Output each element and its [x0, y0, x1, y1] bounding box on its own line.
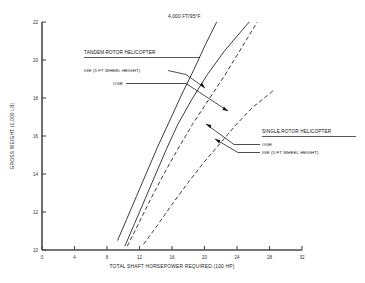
- y-tick-label: 18: [33, 96, 39, 101]
- y-tick-label: 20: [33, 58, 39, 63]
- x-axis: 048121620242832: [41, 246, 305, 260]
- x-tick-label: 24: [234, 255, 240, 260]
- single-oge-label: OGE: [262, 142, 272, 147]
- curve-series-3: [144, 90, 274, 244]
- tandem-oge-arrow: [223, 107, 228, 111]
- x-tick-label: 32: [299, 255, 305, 260]
- y-tick-label: 12: [33, 210, 39, 215]
- single-ige-arrow: [215, 139, 220, 143]
- x-tick-label: 20: [202, 255, 208, 260]
- y-tick-label: 22: [33, 20, 39, 25]
- helicopter-performance-chart: 4,000 FT/95°F 10121416182022 04812162024…: [0, 0, 365, 283]
- x-tick-label: 16: [169, 255, 175, 260]
- x-tick-label: 12: [137, 255, 143, 260]
- curve-series-1: [125, 22, 249, 246]
- x-tick-label: 28: [267, 255, 273, 260]
- tandem-ige-arrow: [200, 82, 205, 88]
- y-tick-group: 10121416182022: [33, 20, 46, 253]
- y-axis: 10121416182022: [33, 20, 46, 253]
- curve-group: [118, 22, 274, 246]
- chart-condition-title: 4,000 FT/95°F: [168, 14, 201, 19]
- y-tick-label: 16: [33, 134, 39, 139]
- y-axis-title: GROSS WEIGHT (1,000 LB): [10, 102, 15, 169]
- single-annotation-group: SINGLE ROTOR HELICOPTER OGE IGE (5-FT WH…: [206, 124, 356, 155]
- tandem-annotation-group: TANDEM ROTOR HELICOPTER IGE (5 FT WHEEL …: [84, 50, 228, 111]
- y-tick-label: 14: [33, 172, 39, 177]
- x-tick-group: 048121620242832: [41, 246, 305, 260]
- single-ige-label: IGE (5-FT WHEEL HEIGHT): [262, 150, 319, 155]
- y-tick-label: 10: [33, 248, 39, 253]
- x-axis-title: TOTAL SHAFT HORSEPOWER REQUIRED (100 HP): [110, 264, 235, 269]
- x-tick-label: 0: [41, 255, 44, 260]
- single-rotor-header: SINGLE ROTOR HELICOPTER: [262, 129, 332, 134]
- x-tick-label: 8: [106, 255, 109, 260]
- tandem-rotor-header: TANDEM ROTOR HELICOPTER: [84, 50, 156, 55]
- chart-svg: 4,000 FT/95°F 10121416182022 04812162024…: [0, 0, 365, 283]
- tandem-ige-label: IGE (5 FT WHEEL HEIGHT): [84, 68, 141, 73]
- tandem-oge-label: OGE: [113, 81, 123, 86]
- curve-series-2: [127, 22, 257, 246]
- x-tick-label: 4: [73, 255, 76, 260]
